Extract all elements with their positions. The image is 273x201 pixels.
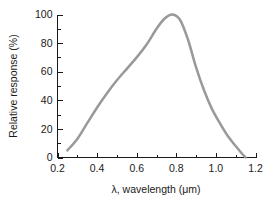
y-tick-label-80: 80 xyxy=(41,37,53,49)
x-axis-title: λ, wavelength (μm) xyxy=(112,183,201,195)
axis-spines xyxy=(58,15,256,158)
response-curve xyxy=(67,14,245,157)
y-tick-label-100: 100 xyxy=(35,8,53,20)
x-tick-label-0.8: 0.8 xyxy=(169,162,184,174)
x-tick-label-0.4: 0.4 xyxy=(90,162,105,174)
y-axis-tick-labels: 020406080100 xyxy=(35,8,53,163)
y-tick-label-20: 20 xyxy=(41,123,53,135)
y-tick-label-40: 40 xyxy=(41,94,53,106)
y-tick-label-60: 60 xyxy=(41,65,53,77)
x-axis-tick-labels: 0.20.40.60.81.01.2 xyxy=(50,162,263,174)
relative-response-spectral-chart: 020406080100 0.20.40.60.81.01.2 λ, wavel… xyxy=(0,0,273,201)
y-axis-title: Relative response (%) xyxy=(7,34,19,137)
x-tick-label-0.6: 0.6 xyxy=(129,162,144,174)
x-tick-label-0.2: 0.2 xyxy=(50,162,65,174)
x-tick-label-1.2: 1.2 xyxy=(248,162,263,174)
figure-container: 020406080100 0.20.40.60.81.01.2 λ, wavel… xyxy=(0,0,273,201)
x-tick-label-1: 1.0 xyxy=(209,162,224,174)
